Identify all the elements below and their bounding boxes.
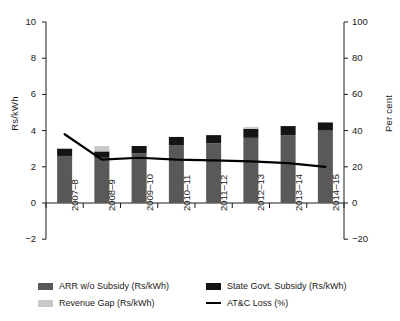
bar-segment: [318, 122, 333, 130]
bar-segment: [94, 146, 109, 151]
y-axis-right-tick-label: 20: [352, 161, 378, 172]
y-axis-right-tick-label: 100: [352, 16, 378, 27]
y-axis-right-tick-label: −20: [352, 233, 378, 244]
y-axis-left-tick-label: 2: [10, 161, 36, 172]
y-axis-left-tick-label: 6: [10, 88, 36, 99]
x-axis-tick-label: 2010–11: [181, 175, 192, 211]
x-axis-tick-label: 2011–12: [218, 175, 229, 211]
bar-segment: [132, 146, 147, 153]
legend-item-revenue-gap: Revenue Gap (Rs/kWh): [38, 298, 155, 308]
legend-line-icon-atc-loss: [206, 302, 221, 304]
bar-segment: [243, 129, 258, 138]
y-axis-left-tick-label: 0: [10, 197, 36, 208]
legend-swatch-icon-subsidy: [206, 283, 221, 290]
legend-label-atc-loss: AT&C Loss (%): [227, 298, 288, 308]
bar-segment: [169, 137, 184, 145]
x-axis-tick-label: 2014–15: [330, 174, 341, 211]
bar-segment: [243, 127, 258, 129]
y-axis-right-tick-label: 0: [352, 197, 378, 208]
y-axis-left-tick-label: 4: [10, 125, 36, 136]
legend-item-arr: ARR w/o Subsidy (Rs/kWh): [38, 281, 169, 291]
legend-item-subsidy: State Govt. Subsidy (Rs/kWh): [206, 281, 347, 291]
x-axis-tick-label: 2013–14: [293, 174, 304, 211]
y-axis-left-tick-label: 10: [10, 16, 36, 27]
y-axis-right-tick-label: 60: [352, 88, 378, 99]
x-axis-tick-label: 2012–13: [255, 174, 266, 211]
x-axis-tick-label: 2008–9: [106, 179, 117, 211]
y-axis-right-tick-label: 80: [352, 52, 378, 63]
x-axis-tick-label: 2009–10: [144, 174, 155, 211]
y-axis-right-title: Per cent: [383, 84, 394, 144]
y-axis-left-tick-label: 8: [10, 52, 36, 63]
x-axis-tick-label: 2007–8: [69, 179, 80, 211]
legend-label-arr: ARR w/o Subsidy (Rs/kWh): [59, 281, 169, 291]
bar-segment: [206, 135, 221, 143]
chart-legend: ARR w/o Subsidy (Rs/kWh) State Govt. Sub…: [38, 281, 368, 315]
legend-swatch-icon-arr: [38, 283, 53, 290]
chart-plot-area: [0, 0, 400, 321]
legend-label-revenue-gap: Revenue Gap (Rs/kWh): [59, 298, 155, 308]
bar-segment: [57, 149, 72, 156]
legend-swatch-icon-revenue-gap: [38, 300, 53, 307]
chart-container: Rs/kWh Per cent 1086420−2 100806040200−2…: [0, 0, 400, 321]
bar-segment: [281, 126, 296, 135]
legend-label-subsidy: State Govt. Subsidy (Rs/kWh): [227, 281, 347, 291]
y-axis-left-tick-label: −2: [10, 233, 36, 244]
legend-item-atc-loss: AT&C Loss (%): [206, 298, 288, 308]
y-axis-right-tick-label: 40: [352, 125, 378, 136]
